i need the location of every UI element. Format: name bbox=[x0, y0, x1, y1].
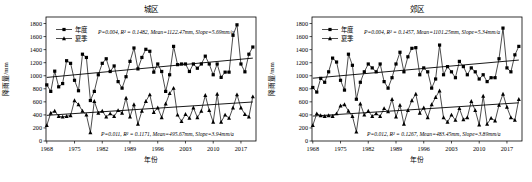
annual-marker bbox=[379, 62, 382, 65]
annual-marker bbox=[474, 70, 477, 73]
summer-marker bbox=[215, 92, 219, 96]
y-tick-label: 1000 bbox=[296, 72, 308, 79]
summer-marker bbox=[398, 103, 402, 107]
x-tick-label: 2010 bbox=[207, 145, 219, 152]
summer-marker bbox=[239, 106, 243, 110]
summer-marker bbox=[164, 102, 168, 106]
annual-marker bbox=[144, 48, 147, 51]
legend-label: 年度 bbox=[75, 25, 88, 34]
legend: 年度夏季 bbox=[322, 25, 354, 43]
chart-title: 郊区 bbox=[410, 4, 425, 14]
summer-marker bbox=[231, 106, 235, 110]
y-tick-label: 400 bbox=[299, 111, 308, 118]
annual-marker bbox=[422, 66, 425, 69]
annual-marker bbox=[394, 62, 397, 65]
annual-trend-line bbox=[47, 58, 253, 77]
annual-marker bbox=[513, 53, 516, 56]
annual-marker bbox=[458, 60, 461, 63]
y-tick-label: 600 bbox=[33, 98, 42, 105]
x-axis-title: 年份 bbox=[144, 155, 158, 164]
summer-marker bbox=[434, 95, 438, 99]
annual-marker bbox=[251, 45, 254, 48]
annual-marker bbox=[117, 80, 120, 83]
annual-marker bbox=[184, 62, 187, 65]
summer-marker bbox=[505, 105, 509, 109]
annual-marker bbox=[212, 73, 215, 76]
annual-marker bbox=[85, 56, 88, 59]
annual-marker bbox=[359, 81, 362, 84]
summer-marker bbox=[80, 109, 84, 113]
annual-marker bbox=[501, 26, 504, 29]
annual-marker bbox=[331, 57, 334, 60]
annual-marker bbox=[406, 55, 409, 58]
x-tick-label: 1968 bbox=[41, 145, 53, 152]
y-tick-label: 800 bbox=[299, 85, 308, 92]
summer-marker bbox=[160, 115, 164, 119]
summer-marker bbox=[183, 112, 187, 116]
summer-marker bbox=[235, 92, 239, 96]
summer-marker bbox=[414, 92, 418, 96]
y-axis: 020040060080010001200140016001800 bbox=[296, 20, 312, 144]
summer-marker bbox=[251, 94, 255, 98]
annual-marker bbox=[438, 43, 441, 46]
summer-marker bbox=[144, 99, 148, 103]
annual-marker bbox=[89, 99, 92, 102]
summer-marker bbox=[223, 113, 227, 117]
summer-marker bbox=[430, 102, 434, 106]
annual-marker bbox=[101, 62, 104, 65]
annual-marker bbox=[327, 70, 330, 73]
summer-marker bbox=[247, 115, 251, 119]
x-tick-label: 2010 bbox=[473, 145, 485, 152]
annual-marker bbox=[418, 73, 421, 76]
annual-marker bbox=[363, 70, 366, 73]
summer-marker bbox=[442, 115, 446, 119]
summer-marker bbox=[410, 98, 414, 102]
annual-marker bbox=[148, 50, 151, 53]
summer-marker bbox=[402, 122, 406, 126]
y-tick-label: 1800 bbox=[296, 20, 308, 27]
annual-marker bbox=[493, 76, 496, 79]
summer-marker bbox=[382, 106, 386, 110]
y-tick-label: 1200 bbox=[296, 59, 308, 66]
y-axis-title: 降雨量/mm bbox=[1, 62, 10, 96]
x-tick-label: 2003 bbox=[445, 145, 457, 152]
annual-marker bbox=[132, 46, 135, 49]
annual-marker bbox=[450, 70, 453, 73]
urban-chart-svg: 城区02004006008001000120014001600180019681… bbox=[0, 0, 266, 182]
annual-marker bbox=[45, 83, 48, 86]
summer-marker bbox=[132, 102, 136, 106]
summer-marker bbox=[49, 111, 53, 115]
annual-marker bbox=[93, 90, 96, 93]
annual-marker bbox=[390, 76, 393, 79]
annual-marker bbox=[168, 73, 171, 76]
legend-label: 夏季 bbox=[75, 34, 88, 43]
x-axis-title: 年份 bbox=[410, 155, 424, 164]
annual-marker bbox=[402, 70, 405, 73]
summer-marker bbox=[92, 99, 96, 103]
annual-marker bbox=[136, 67, 139, 70]
annual-marker bbox=[497, 57, 500, 60]
annual-marker bbox=[239, 62, 242, 65]
summer-marker bbox=[156, 106, 160, 110]
annual-marker bbox=[208, 62, 211, 65]
legend-label: 年度 bbox=[341, 25, 354, 34]
summer-marker bbox=[73, 98, 77, 102]
annual-marker bbox=[319, 77, 322, 80]
y-tick-label: 1200 bbox=[30, 59, 42, 66]
annual-marker bbox=[509, 70, 512, 73]
annual-marker bbox=[65, 59, 68, 62]
annual-marker bbox=[216, 62, 219, 65]
annual-marker bbox=[247, 53, 250, 56]
summer-marker bbox=[243, 112, 247, 116]
annual-marker bbox=[156, 62, 159, 65]
summer-marker bbox=[461, 117, 465, 121]
annual-trend-line bbox=[313, 60, 519, 78]
summer-marker bbox=[513, 118, 517, 122]
summer-marker bbox=[176, 113, 180, 117]
summer-marker bbox=[517, 97, 521, 101]
annual-marker bbox=[430, 87, 433, 90]
summer-stats-annotation: P=0.012, R² = 0.1267, Mean=483.45mm, Slo… bbox=[366, 131, 501, 137]
summer-marker bbox=[477, 122, 481, 126]
y-tick-label: 1600 bbox=[30, 33, 42, 40]
y-tick-label: 600 bbox=[299, 98, 308, 105]
